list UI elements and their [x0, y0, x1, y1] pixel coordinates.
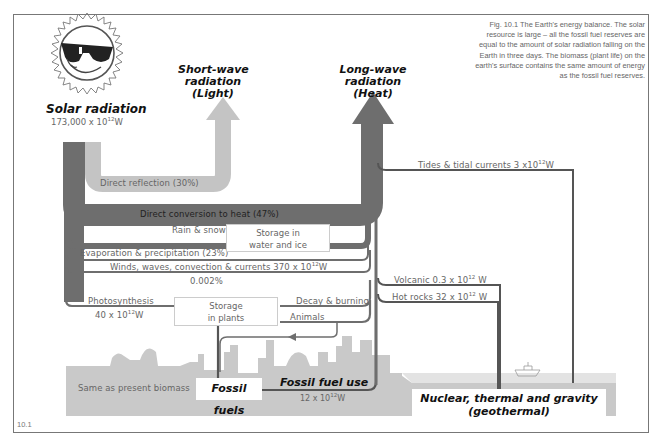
volcanic-label: Volcanic 0.3 x 1012 W	[394, 275, 487, 285]
animals-label: Animals	[290, 312, 325, 322]
fossil-fuel-use-value: 12 x 1012W	[300, 394, 345, 403]
solar-radiation-title: Solar radiation	[46, 102, 147, 116]
figure-caption: Fig. 10.1 The Earth's energy balance. Th…	[470, 20, 645, 81]
decay-burning-label: Decay & burning	[296, 296, 369, 306]
photosynthesis-label: Photosynthesis	[88, 296, 154, 306]
photosynthesis-percentage: 0.002%	[190, 276, 223, 286]
photosynthesis-value: 40 x 1012W	[95, 310, 144, 320]
solar-radiation-value: 173,000 x 1012W	[51, 117, 123, 127]
hot-rocks-label: Hot rocks 32 x 1012 W	[392, 292, 487, 302]
fossil-fuel-use-title: Fossil fuel use	[280, 376, 368, 389]
rain-snow-label: Rain & snow	[172, 225, 226, 235]
biomass-note: Same as present biomass	[78, 383, 190, 393]
figure-number: 10.1	[17, 420, 32, 429]
storage-plants-box: Storage in plants	[174, 297, 278, 326]
direct-reflection-label: Direct reflection (30%)	[100, 178, 199, 188]
storage-water-ice-box: Storage in water and ice	[226, 224, 330, 252]
direct-conversion-label: Direct conversion to heat (47%)	[140, 209, 279, 219]
winds-label: Winds, waves, convection & currents 370 …	[110, 262, 327, 272]
sun-with-sunglasses-icon	[51, 13, 123, 94]
direct-reflection-flow	[93, 118, 223, 184]
evaporation-label: Evaporation & precipitation (23%)	[80, 248, 228, 258]
short-wave-radiation-label: Short-wave radiation (Light)	[178, 64, 248, 100]
nuclear-thermal-gravity-box: Nuclear, thermal and gravity (geothermal…	[412, 389, 606, 421]
long-wave-radiation-label: Long-wave radiation (Heat)	[336, 64, 410, 100]
tides-label: Tides & tidal currents 3 x1012W	[418, 160, 554, 170]
fossil-fuels-box: Fossil fuels	[196, 378, 262, 400]
